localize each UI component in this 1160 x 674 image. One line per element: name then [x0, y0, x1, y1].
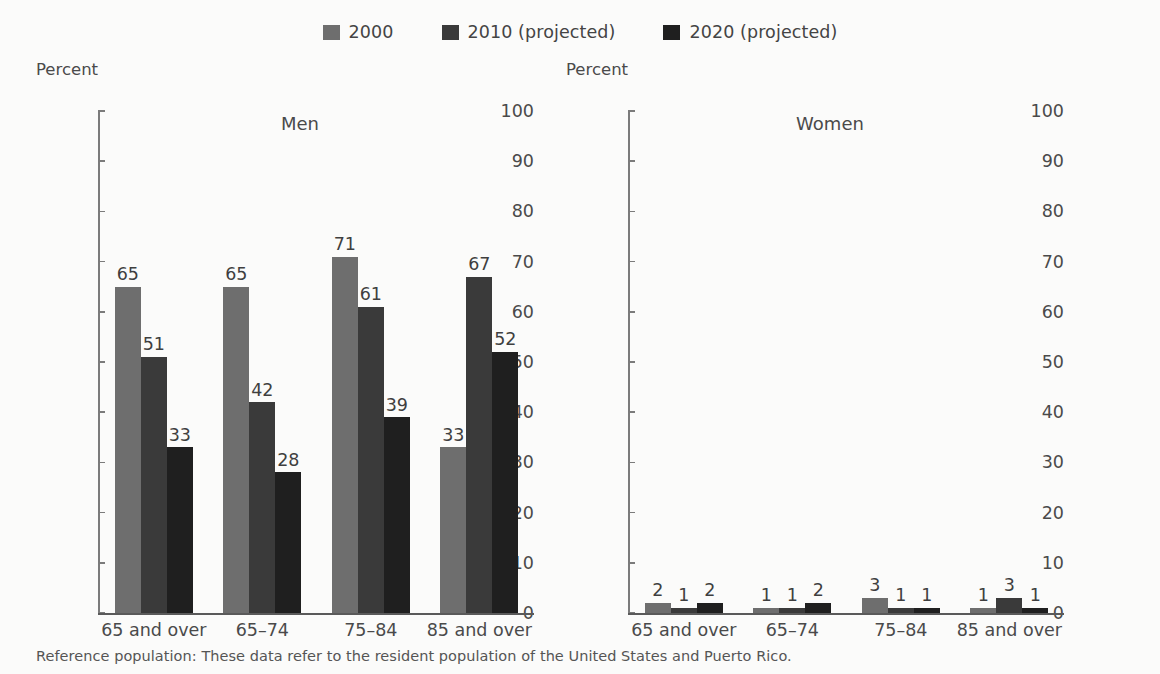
x-axis-labels-men: 65 and over65–7475–8485 and over [100, 620, 534, 646]
bars-container-women: 212112311131 [630, 111, 1064, 613]
bar: 67 [466, 277, 492, 613]
bar-value-label: 65 [225, 266, 247, 284]
legend-label-2010: 2010 (projected) [468, 22, 616, 42]
legend-item-2020: 2020 (projected) [663, 22, 837, 42]
x-axis-category-label: 75–84 [344, 620, 397, 640]
bar-value-label: 71 [334, 236, 356, 254]
bar-value-label: 1 [895, 587, 906, 605]
bar-group: 654228 [208, 111, 317, 613]
bar-value-label: 42 [251, 382, 273, 400]
bar-value-label: 1 [787, 587, 798, 605]
bar: 71 [332, 257, 358, 613]
bar-value-label: 2 [813, 582, 824, 600]
chart-panel-women: Percent Women 0102030405060708090100 212… [566, 60, 1064, 628]
bar: 33 [440, 447, 466, 613]
chart-panel-men: Percent Men 0102030405060708090100 65513… [36, 60, 534, 628]
bar-group: 716139 [317, 111, 426, 613]
bar: 1 [970, 608, 996, 613]
bar-value-label: 1 [978, 587, 989, 605]
bar-value-label: 3 [869, 577, 880, 595]
bar-group: 131 [955, 111, 1064, 613]
bar-value-label: 65 [117, 266, 139, 284]
legend-item-2010: 2010 (projected) [442, 22, 616, 42]
bars-container-men: 655133654228716139336752 [100, 111, 534, 613]
bar-group: 336752 [425, 111, 534, 613]
bar-value-label: 1 [678, 587, 689, 605]
legend-swatch-2000 [323, 25, 340, 40]
bar-value-label: 2 [704, 582, 715, 600]
bar-value-label: 3 [1004, 577, 1015, 595]
bar: 39 [384, 417, 410, 613]
bar: 3 [862, 598, 888, 613]
bar: 51 [141, 357, 167, 613]
bar-value-label: 1 [921, 587, 932, 605]
bar-group: 112 [738, 111, 847, 613]
bar: 1 [888, 608, 914, 613]
bar-value-label: 61 [360, 286, 382, 304]
x-axis-category-label: 85 and over [427, 620, 532, 640]
bar: 52 [492, 352, 518, 613]
x-axis-line-men [98, 613, 534, 615]
bar: 33 [167, 447, 193, 613]
y-axis-unit-label-men: Percent [36, 60, 534, 79]
x-axis-category-label: 65–74 [766, 620, 819, 640]
bar: 1 [671, 608, 697, 613]
bar: 28 [275, 472, 301, 613]
y-axis-unit-label-women: Percent [566, 60, 1064, 79]
legend-label-2000: 2000 [349, 22, 394, 42]
x-axis-category-label: 85 and over [957, 620, 1062, 640]
bar: 65 [115, 287, 141, 613]
bar: 2 [697, 603, 723, 613]
legend-item-2000: 2000 [323, 22, 394, 42]
bar: 1 [1022, 608, 1048, 613]
bar: 1 [779, 608, 805, 613]
bar: 2 [645, 603, 671, 613]
legend-label-2020: 2020 (projected) [689, 22, 837, 42]
x-axis-line-women [628, 613, 1064, 615]
legend-swatch-2020 [663, 25, 680, 40]
x-axis-category-label: 65–74 [236, 620, 289, 640]
x-axis-category-label: 65 and over [101, 620, 206, 640]
x-axis-labels-women: 65 and over65–7475–8485 and over [630, 620, 1064, 646]
bar-group: 311 [847, 111, 956, 613]
bar-value-label: 1 [761, 587, 772, 605]
bar: 3 [996, 598, 1022, 613]
bar-value-label: 33 [442, 427, 464, 445]
bar-value-label: 2 [652, 582, 663, 600]
bar-value-label: 39 [386, 397, 408, 415]
x-axis-category-label: 65 and over [631, 620, 736, 640]
bar-value-label: 67 [468, 256, 490, 274]
plot-area-women: Women 0102030405060708090100 21211231113… [566, 83, 1064, 628]
chart-legend: 2000 2010 (projected) 2020 (projected) [0, 22, 1160, 42]
bar: 1 [914, 608, 940, 613]
reference-population-note: Reference population: These data refer t… [36, 648, 792, 664]
plot-area-men: Men 0102030405060708090100 6551336542287… [36, 83, 534, 628]
bar-value-label: 33 [169, 427, 191, 445]
bar-value-label: 1 [1030, 587, 1041, 605]
bar-value-label: 52 [494, 331, 516, 349]
legend-swatch-2010 [442, 25, 459, 40]
bar: 65 [223, 287, 249, 613]
bar: 42 [249, 402, 275, 613]
bar: 2 [805, 603, 831, 613]
bar-group: 212 [630, 111, 739, 613]
bar: 1 [753, 608, 779, 613]
bar-value-label: 28 [277, 452, 299, 470]
x-axis-category-label: 75–84 [874, 620, 927, 640]
bar: 61 [358, 307, 384, 613]
bar-value-label: 51 [143, 336, 165, 354]
bar-group: 655133 [100, 111, 209, 613]
